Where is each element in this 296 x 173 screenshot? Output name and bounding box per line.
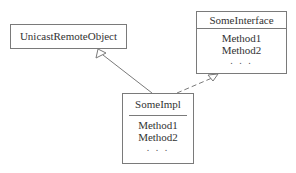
class-name: SomeInterface: [197, 12, 286, 28]
generalization-line: [103, 55, 152, 93]
class-box-some-impl[interactable]: SomeImpl Method1 Method2 . . .: [122, 93, 194, 164]
more-methods-ellipsis: . . .: [123, 143, 193, 153]
class-name: SomeImpl: [123, 94, 193, 115]
method-list: Method1 Method2: [123, 116, 193, 143]
more-methods-ellipsis: . . .: [197, 56, 286, 66]
class-box-some-interface[interactable]: SomeInterface Method1 Method2 . . .: [196, 11, 287, 74]
method-item: Method1: [197, 32, 286, 44]
realization-arrowhead-icon: [208, 74, 218, 81]
realization-line: [177, 78, 212, 93]
method-list: Method1 Method2: [197, 29, 286, 56]
class-name: UnicastRemoteObject: [11, 25, 126, 48]
method-item: Method1: [123, 119, 193, 131]
class-box-unicast-remote-object[interactable]: UnicastRemoteObject: [10, 24, 127, 49]
